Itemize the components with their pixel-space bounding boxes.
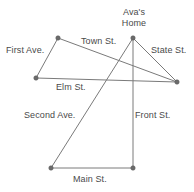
label-elm-st: Elm St. xyxy=(56,82,86,93)
node-avas-home xyxy=(131,36,135,40)
street-map-figure: Ava's Home First Ave. Town St. State St.… xyxy=(0,0,194,192)
label-first-ave: First Ave. xyxy=(6,45,44,56)
node-main-east xyxy=(131,166,135,170)
label-front-st: Front St. xyxy=(135,110,170,121)
node-elm-west xyxy=(34,76,38,80)
label-main-st: Main St. xyxy=(73,174,107,185)
street-lines xyxy=(36,38,177,168)
node-town-west xyxy=(56,36,60,40)
label-second-ave: Second Ave. xyxy=(24,110,75,121)
map-canvas xyxy=(0,0,194,192)
label-state-st: State St. xyxy=(151,45,186,56)
label-avas-home: Ava's Home xyxy=(113,7,155,28)
label-avas-home-line2: Home xyxy=(113,18,155,29)
street-line-first-ave xyxy=(36,38,58,78)
street-line-second-ave xyxy=(51,38,133,168)
label-town-st: Town St. xyxy=(81,36,116,47)
label-avas-home-line1: Ava's xyxy=(113,7,155,18)
node-main-west xyxy=(49,166,53,170)
node-east-corner xyxy=(175,80,179,84)
